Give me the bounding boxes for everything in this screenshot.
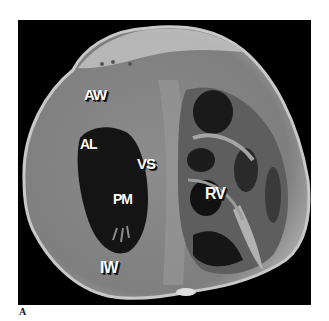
- label-anterior-wall: AW: [84, 87, 106, 102]
- label-ventricular-septum: VS: [137, 156, 155, 171]
- label-papillary-muscle: PM: [113, 192, 132, 206]
- label-right-ventricle: RV: [205, 186, 225, 202]
- label-anterolateral: AL: [80, 137, 97, 151]
- panel-label: A: [19, 306, 26, 317]
- heart-illustration: [18, 20, 311, 305]
- heart-cross-section-photo: AW AL VS PM RV IW: [18, 20, 311, 305]
- label-inferior-wall: IW: [100, 260, 118, 276]
